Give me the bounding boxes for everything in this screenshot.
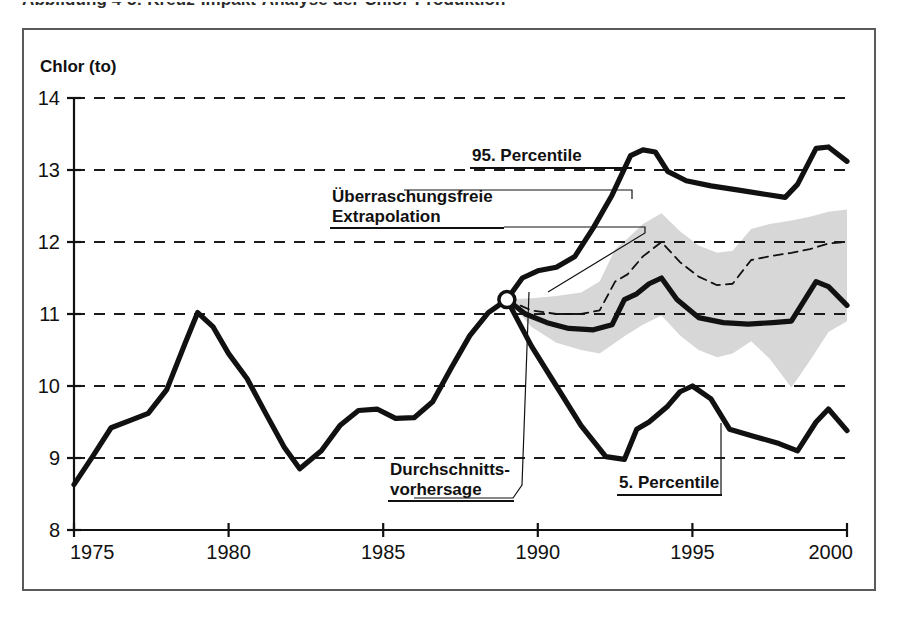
x-tick-label-1975: 1975	[70, 541, 115, 563]
y-tick-label-12: 12	[38, 231, 60, 253]
x-tick-label-2000: 2000	[809, 541, 854, 563]
chart-frame: 891011121314 197519801985199019952000 Ch…	[22, 28, 876, 591]
leader-mean	[414, 292, 529, 498]
x-tick-label-1985: 1985	[361, 541, 406, 563]
fork-point-marker	[499, 292, 515, 308]
figure-page: Abbildung 4-5: Kreuz-Impakt-Analyse der …	[0, 0, 898, 621]
y-tick-label-10: 10	[38, 375, 60, 397]
figure-title: Abbildung 4-5: Kreuz-Impakt-Analyse der …	[22, 0, 506, 10]
y-tick-label-8: 8	[49, 519, 60, 541]
chart-plot-area: 891011121314 197519801985199019952000 Ch…	[24, 30, 874, 589]
y-axis-title: Chlor (to)	[40, 57, 116, 76]
y-tick-label-9: 9	[49, 447, 60, 469]
series-0	[74, 300, 507, 485]
x-axis-tick-labels: 197519801985199019952000	[70, 541, 853, 563]
y-tick-label-13: 13	[38, 159, 60, 181]
x-tick-label-1980: 1980	[206, 541, 251, 563]
x-tick-label-1990: 1990	[516, 541, 561, 563]
x-tick-label-1995: 1995	[670, 541, 715, 563]
y-tick-label-14: 14	[38, 87, 60, 109]
leader-p95	[404, 190, 632, 199]
y-tick-label-11: 11	[39, 303, 60, 325]
y-axis-tick-labels: 891011121314	[38, 87, 60, 541]
